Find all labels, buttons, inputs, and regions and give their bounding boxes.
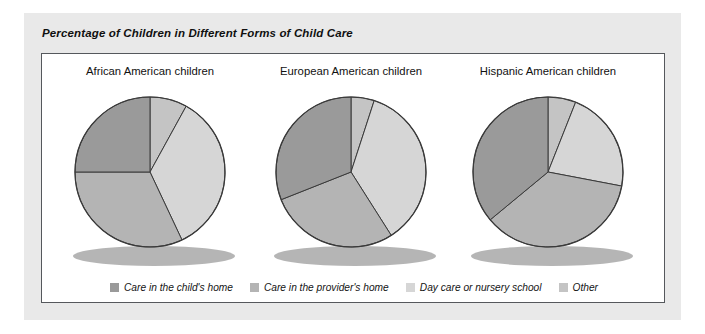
legend-label-2: Day care or nursery school (420, 282, 542, 293)
legend-swatch-icon-2 (406, 283, 415, 292)
plot-area: African American children European Ameri… (41, 53, 665, 303)
legend-item-3: Other (559, 282, 598, 293)
figure-title: Percentage of Children in Different Form… (42, 27, 353, 39)
pie-svg-1 (259, 80, 443, 270)
legend-item-0: Care in the child's home (110, 282, 233, 293)
legend-swatch-icon-3 (559, 283, 568, 292)
pie-shadow (73, 246, 235, 266)
pie-shadow (274, 246, 436, 266)
pie-chart-african-american: African American children (50, 54, 250, 269)
pie-svg-2 (456, 80, 640, 270)
pie-title-0: African American children (50, 65, 250, 77)
pie-slice (75, 97, 150, 172)
pie-chart-european-american: European American children (251, 54, 451, 269)
legend-item-1: Care in the provider's home (250, 282, 389, 293)
pie-title-1: European American children (251, 65, 451, 77)
pie-shadow (471, 246, 633, 266)
legend-label-1: Care in the provider's home (264, 282, 389, 293)
legend-label-0: Care in the child's home (124, 282, 233, 293)
figure-container: Percentage of Children in Different Form… (0, 0, 705, 334)
legend-label-3: Other (573, 282, 598, 293)
pie-title-2: Hispanic American children (448, 65, 648, 77)
legend: Care in the child's home Care in the pro… (42, 282, 666, 293)
legend-swatch-icon-1 (250, 283, 259, 292)
pie-svg-0 (58, 80, 242, 270)
legend-item-2: Day care or nursery school (406, 282, 542, 293)
legend-swatch-icon-0 (110, 283, 119, 292)
pie-chart-hispanic-american: Hispanic American children (448, 54, 648, 269)
